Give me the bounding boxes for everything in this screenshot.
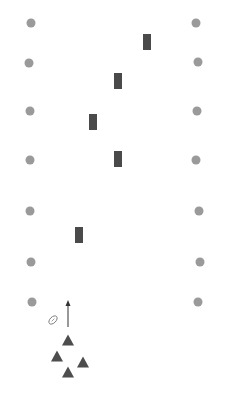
arrow-up-icon xyxy=(0,0,231,401)
drill-diagram xyxy=(0,0,231,401)
